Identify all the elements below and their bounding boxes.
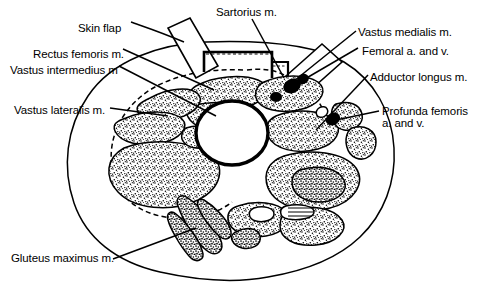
label-adductor-longus: Adductor longus m.	[370, 71, 467, 84]
label-sartorius: Sartorius m.	[216, 6, 277, 19]
label-rectus-femoris: Rectus femoris m.	[33, 48, 124, 61]
anatomy-cross-section-illustration	[0, 0, 480, 291]
label-femoral-artery-vein: Femoral a. and v.	[362, 45, 449, 58]
label-profunda-femoris-line2: a. and v.	[382, 117, 424, 130]
sciatic-nerve	[270, 92, 282, 102]
label-profunda-femoris-line1: Profunda femoris	[382, 105, 468, 118]
label-skin-flap: Skin flap	[78, 22, 121, 35]
label-vastus-lateralis: Vastus lateralis m.	[14, 104, 105, 117]
label-vastus-intermedius: Vastus intermedius m	[10, 64, 118, 77]
skin-flap-left[interactable]	[168, 18, 218, 78]
label-vastus-medialis: Vastus medialis m.	[358, 26, 452, 39]
figure-canvas: Skin flap Rectus femoris m. Vastus inter…	[0, 0, 480, 291]
label-gluteus-maximus: Gluteus maximus m.	[11, 252, 114, 265]
